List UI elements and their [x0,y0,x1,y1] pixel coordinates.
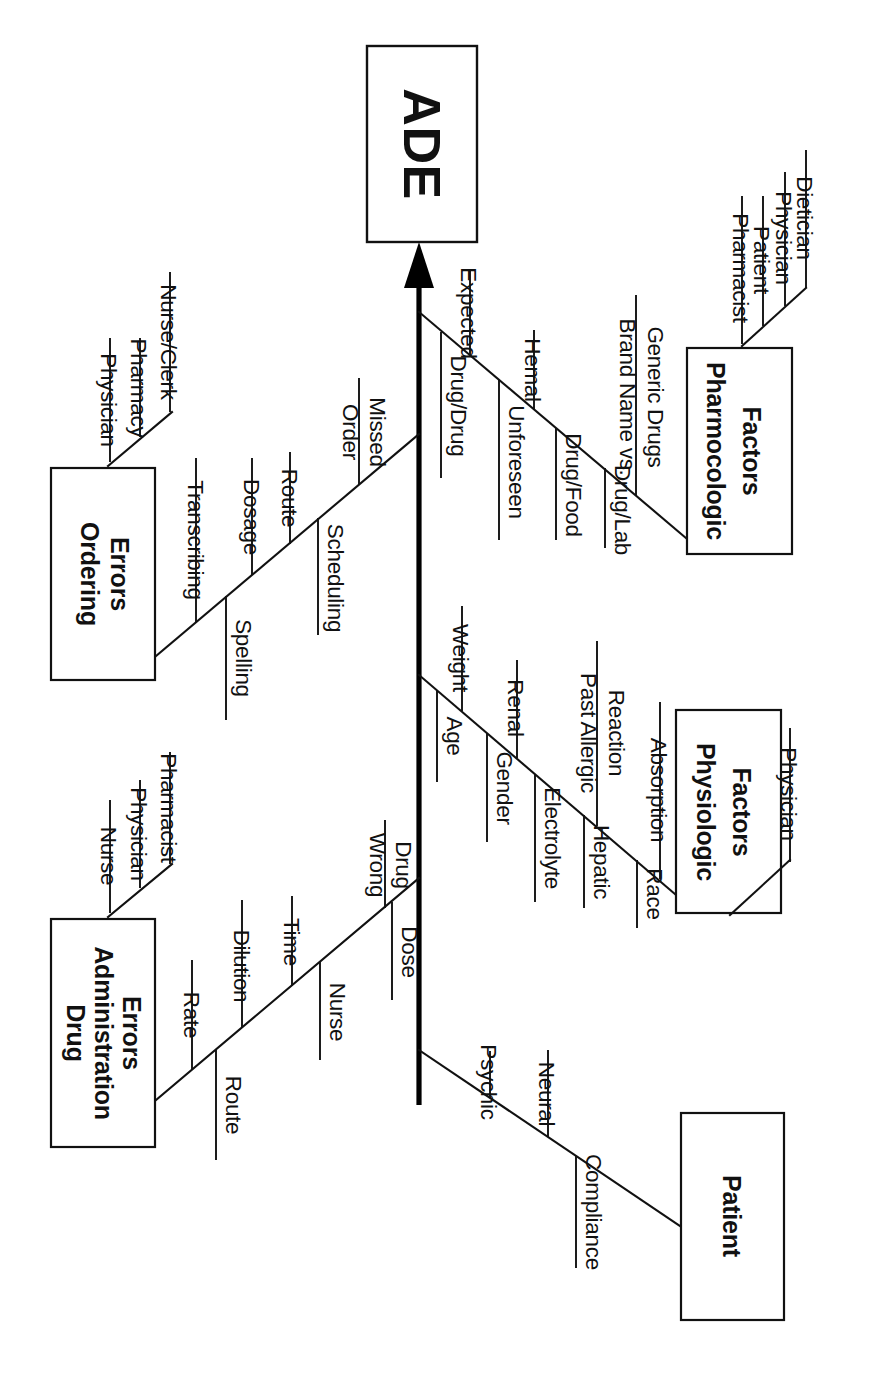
category-label-pharm-line2: Factors [738,407,766,496]
twig-label-ph-physician: Physician [776,747,801,841]
category-label-physio-line1: Physiologic [692,743,720,881]
twig-label-pf-brand1: Brand Name vs. [615,318,640,475]
spine-arrowhead-icon [404,242,434,288]
effect-label: ADE [393,88,451,199]
category-patient: Patient Psychic Neural Compliance [419,1044,784,1320]
twig-label-ph-renal: Renal [503,679,528,736]
fishbone-svg-canvas: ADE Ordering Errors Transcribing Dosage … [0,0,873,1374]
twig-label-pf-brand2: Generic Drugs [643,326,668,467]
category-label-ordering-line2: Errors [106,537,134,611]
twig-label-oe-order: Order [338,404,363,461]
twig-label-da-route: Route [221,1076,246,1135]
category-ordering-errors: Ordering Errors Transcribing Dosage Rout… [51,272,419,720]
category-label-patient: Patient [718,1175,746,1258]
twig-label-pf-unforeseen: Unforeseen [504,405,529,518]
category-pharmacologic-factors: Pharmocologic Factors Expected Hemal Bra… [419,150,817,555]
category-label-pharm-line1: Pharmocologic [702,362,730,540]
twig-label-da-nurse: Nurse [325,983,350,1042]
twig-label-da-pharmacist: Pharmacist [156,753,181,864]
twig-label-oe-missed: Missed [365,397,390,466]
twig-label-da-drug: Drug [391,841,416,889]
twig-label-ph-age: Age [442,716,467,755]
twig-label-ph-reaction: Reaction [604,690,629,776]
twig-label-oe-transcribing: Transcribing [183,480,208,599]
twig-label-pt-psychic: Psychic [476,1044,501,1119]
twig-label-pt-neural: Neural [534,1062,559,1126]
bone-administration-details [156,878,419,1100]
twig-label-ph-weight: Weight [448,624,473,693]
twig-label-da-physician: Physician [126,787,151,881]
twig-label-da-dose: Dose [397,926,422,977]
category-label-admin-line1: Drug [62,1004,90,1062]
category-label-admin-line2: Administration [90,946,118,1120]
twig-label-ph-past: Past Allergic [576,673,601,793]
twig-label-pt-compliance: Compliance [581,1154,606,1270]
category-label-physio-line2: Factors [728,768,756,857]
twig-label-pf-drugfood: Drug/Food [561,433,586,537]
twig-label-pf-dietician: Dietician [792,176,817,260]
twig-label-pf-hemal: Hemal [520,338,545,402]
twig-label-oe-nurseclerk: Nurse/Clerk [156,284,181,401]
category-drug-administration-errors: Drug Administration Errors Rate Dilution… [51,752,422,1160]
category-physiologic-factors: Physiologic Factors Weight Renal Past Al… [419,606,801,928]
twig-label-oe-dosage: Dosage [239,479,264,555]
twig-label-ph-electrolyte: Electrolyte [540,787,565,889]
category-label-ordering-line1: Ordering [76,522,104,626]
twig-label-ph-absorption: Absorption [646,738,671,843]
twig-label-pf-drugdrug: Drug/Drug [446,355,471,456]
twig-label-pf-patient: Patient [749,226,774,295]
twig-label-oe-pharmacy: Pharmacy [126,339,151,439]
twig-label-oe-spelling: Spelling [231,619,256,697]
fishbone-diagram-page: ADE Ordering Errors Transcribing Dosage … [0,0,873,1374]
twig-label-da-time: Time [279,918,304,966]
twig-label-ph-gender: Gender [492,751,517,825]
twig-label-ph-race: Race [642,868,667,919]
effect-box-group: ADE [367,46,477,242]
twig-label-da-nurse-top: Nurse [96,827,121,886]
twig-label-oe-scheduling: Scheduling [323,524,348,632]
twig-label-da-dilution: Dilution [229,930,254,1003]
twig-label-ph-hepatic: Hepatic [589,825,614,899]
twig-label-oe-physician: Physician [96,353,121,447]
twig-label-pf-expected: Expected [456,267,481,358]
twig-label-da-wrong: Wrong [365,833,390,897]
twig-label-pf-druglab: Drug/Lab [610,465,635,555]
twig-label-oe-route: Route [277,469,302,528]
twig-label-da-rate: Rate [179,992,204,1038]
category-label-admin-line3: Errors [118,996,146,1070]
